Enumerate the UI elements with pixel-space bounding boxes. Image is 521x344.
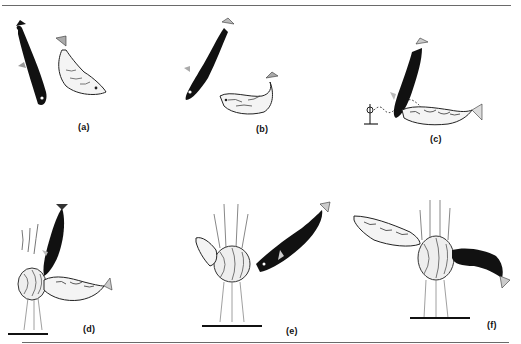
panel-e: (e) [180, 190, 350, 344]
panel-label: (b) [256, 124, 268, 134]
male-fish-icon [452, 248, 510, 288]
panel-label: (d) [83, 324, 95, 334]
female-fish-icon [196, 238, 217, 266]
panel-label: (f) [487, 320, 497, 330]
bottom-rule [22, 342, 509, 343]
nest-icon [8, 268, 48, 334]
male-fish-icon [390, 38, 428, 118]
male-fish-icon [16, 20, 47, 105]
male-fish-icon [256, 202, 330, 272]
water-weed-icon [420, 200, 450, 240]
female-fish-icon [220, 72, 278, 114]
male-fish-icon [42, 204, 68, 276]
water-weed-icon [214, 204, 248, 248]
panel-c-illustration [340, 0, 521, 170]
nest-marker-icon [364, 104, 378, 124]
panel-d-illustration [0, 190, 170, 344]
panel-a: (a) [0, 0, 170, 170]
panel-label: (e) [286, 326, 298, 336]
panel-b: (b) [170, 0, 340, 170]
panel-label: (a) [78, 122, 90, 132]
panel-d: (d) [0, 190, 170, 344]
female-fish-icon [354, 216, 420, 246]
male-fish-icon [184, 18, 234, 100]
female-fish-icon [44, 277, 112, 301]
panel-f: (f) [340, 190, 521, 344]
panel-b-illustration [170, 0, 340, 170]
female-fish-icon [402, 104, 482, 125]
water-weed-icon [22, 224, 38, 254]
female-fish-icon [56, 36, 106, 94]
panel-c: (c) [340, 0, 521, 170]
panel-e-illustration [180, 190, 350, 344]
panel-label: (c) [430, 134, 442, 144]
nest-icon [410, 236, 470, 318]
panel-a-illustration [0, 0, 170, 170]
